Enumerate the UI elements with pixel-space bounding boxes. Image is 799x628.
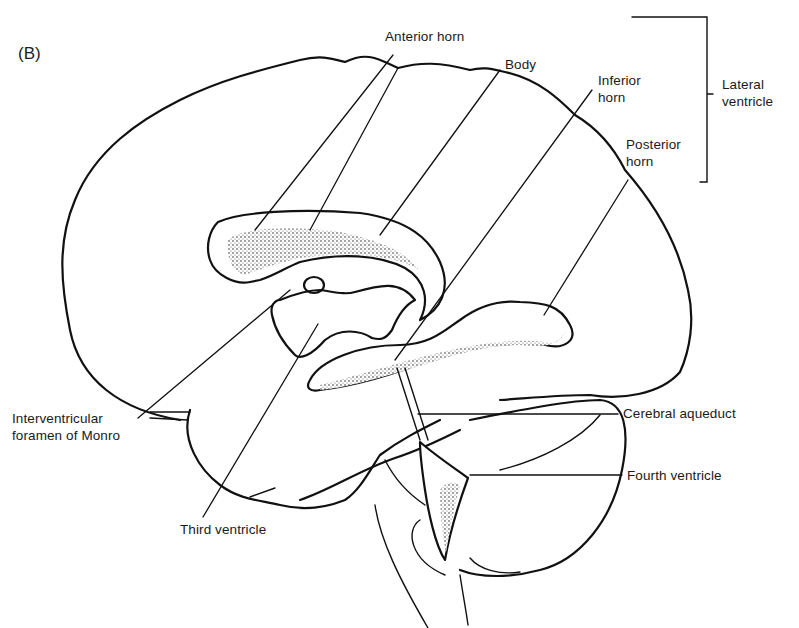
- label-lateral-ventricle-line1: Lateral: [722, 76, 773, 93]
- label-interventricular-foramen: Interventricular foramen of Monro: [12, 410, 120, 444]
- leader-anterior-horn-2: [310, 68, 398, 230]
- cerebellum-fold: [500, 415, 600, 470]
- label-lateral-ventricle: Lateral ventricle: [722, 76, 773, 110]
- label-posterior-horn-line1: Posterior: [626, 136, 681, 153]
- brainstem-back: [460, 575, 468, 625]
- label-cerebral-aqueduct: Cerebral aqueduct: [623, 405, 736, 422]
- pons-line: [385, 460, 425, 505]
- cerebellum-outline: [460, 400, 626, 576]
- brainstem-front: [375, 505, 428, 628]
- label-inferior-horn-line1: Inferior: [598, 72, 641, 89]
- frontal-base-line: [150, 412, 190, 420]
- label-interventricular-foramen-line2: foramen of Monro: [12, 427, 120, 444]
- leader-posterior-horn: [544, 180, 628, 315]
- leader-body: [380, 70, 500, 235]
- label-anterior-horn: Anterior horn: [385, 28, 464, 45]
- leader-third-ventricle: [203, 324, 318, 517]
- label-posterior-horn: Posterior horn: [626, 136, 681, 170]
- label-inferior-horn-line2: horn: [598, 89, 641, 106]
- label-interventricular-foramen-line1: Interventricular: [12, 410, 120, 427]
- inferior-posterior-horn: [308, 302, 572, 391]
- label-third-ventricle: Third ventricle: [180, 521, 266, 538]
- leader-interventricular-foramen: [138, 290, 290, 418]
- label-inferior-horn: Inferior horn: [598, 72, 641, 106]
- label-fourth-ventricle: Fourth ventricle: [627, 467, 722, 484]
- cerebellum-inner: [470, 558, 520, 573]
- temporal-notch: [250, 488, 275, 497]
- label-body: Body: [505, 56, 536, 73]
- brain-ventricles-diagram: [0, 0, 799, 628]
- label-lateral-ventricle-line2: ventricle: [722, 93, 773, 110]
- label-posterior-horn-line2: horn: [626, 153, 681, 170]
- panel-label: (B): [18, 44, 41, 64]
